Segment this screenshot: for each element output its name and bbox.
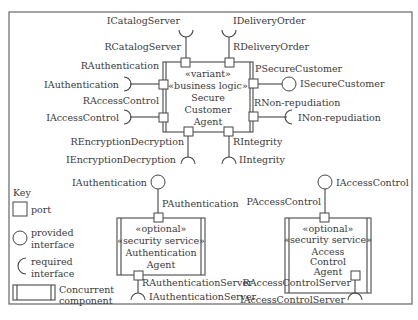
port-square-icon — [351, 271, 360, 280]
authentication-agent: «optional» «security service» Authentica… — [117, 218, 205, 275]
port-rnon-repudiation: INon-repudiation RNon-repudiation — [249, 97, 381, 124]
port-label: RCatalogServer — [104, 41, 181, 52]
required-interface-icon — [131, 293, 145, 300]
legend-label: Concurrent — [59, 284, 114, 295]
stereotype-variant: «variant» — [185, 68, 231, 79]
port-square-icon — [184, 127, 193, 136]
port-square-icon — [249, 79, 258, 88]
required-interface-icon — [181, 157, 195, 164]
legend-label: interface — [31, 268, 75, 279]
component-name-line: Agent — [313, 266, 343, 277]
port-label: REncryptionDecryption — [71, 136, 184, 147]
legend-provided-interface-icon — [13, 231, 27, 245]
legend-required-interface-icon — [18, 258, 26, 274]
legend-label: provided — [31, 227, 74, 238]
legend-label: component — [59, 295, 113, 306]
secure-customer-agent: «variant» «business logic» Secure Custom… — [163, 62, 253, 132]
interface-label: IDeliveryOrder — [233, 15, 306, 26]
legend-concurrent-component-icon — [13, 285, 55, 300]
port-rauthentication: IAuthentication RAuthentication — [44, 60, 168, 91]
interface-label: IAuthentication — [72, 177, 147, 188]
stereotype-optional: «optional» — [303, 223, 354, 234]
interface-label: ICatalogServer — [107, 15, 181, 26]
interface-label: IAccessControl — [336, 177, 409, 188]
port-label: RAuthentication — [81, 60, 159, 71]
port-psecurecustomer: ISecureCustomer PSecureCustomer — [249, 63, 385, 91]
component-name-line: Secure — [191, 92, 225, 103]
port-label: RNon-repudiation — [254, 97, 340, 108]
component-name-line: Authentication — [124, 247, 196, 258]
component-name-line: Agent — [193, 116, 223, 127]
legend-label: required — [31, 256, 73, 267]
required-interface-icon — [222, 157, 236, 164]
interface-label: IAuthentication — [44, 79, 119, 90]
port-label: PAccessControl — [246, 196, 321, 207]
provided-interface-icon — [282, 77, 296, 91]
legend-label: port — [31, 204, 51, 215]
interface-label: IAccessControl — [46, 112, 119, 123]
legend: Key port provided interface required int… — [13, 187, 114, 306]
port-raccesscontrol: IAccessControl RAccessControl — [46, 95, 168, 124]
legend-label: interface — [31, 239, 75, 250]
port-rdeliveryorder: IDeliveryOrder RDeliveryOrder — [222, 15, 309, 67]
port-square-icon — [225, 58, 234, 67]
port-rencryptiondecryption: REncryptionDecryption IEncryptionDecrypt… — [66, 127, 195, 165]
required-interface-icon — [222, 30, 236, 37]
port-square-icon — [181, 58, 190, 67]
component-name-line: Customer — [185, 104, 232, 115]
port-pauthentication: IAuthentication PAuthentication — [72, 175, 239, 222]
port-rintegrity: RIntegrity IIntegrity — [222, 127, 286, 165]
legend-port-square-icon — [13, 202, 27, 216]
component-name-line: Agent — [146, 259, 176, 270]
required-interface-icon — [124, 110, 131, 124]
port-label: RIntegrity — [233, 136, 283, 147]
interface-label: IEncryptionDecryption — [66, 154, 176, 165]
port-label: RAuthenticationServer — [142, 277, 253, 288]
stereotype-business-logic: «business logic» — [168, 80, 248, 91]
component-diagram: «variant» «business logic» Secure Custom… — [0, 0, 418, 320]
stereotype-optional: «optional» — [136, 223, 187, 234]
port-paccesscontrol: IAccessControl PAccessControl — [246, 175, 408, 222]
port-square-icon — [154, 213, 163, 222]
interface-label: IIntegrity — [239, 154, 286, 165]
provided-interface-icon — [151, 175, 165, 189]
port-square-icon — [159, 113, 168, 122]
port-square-icon — [320, 213, 329, 222]
port-label: PSecureCustomer — [255, 63, 343, 74]
legend-title: Key — [13, 187, 31, 198]
port-square-icon — [159, 80, 168, 89]
stereotype-security-service: «security service» — [284, 234, 372, 245]
port-label: RDeliveryOrder — [233, 41, 309, 52]
port-square-icon — [249, 112, 258, 121]
port-label: PAuthentication — [162, 198, 239, 209]
stereotype-security-service: «security service» — [117, 235, 205, 246]
interface-label: ISecureCustomer — [300, 78, 385, 89]
required-interface-icon — [348, 293, 362, 300]
required-interface-icon — [179, 30, 193, 37]
port-label: RAccessControlServer — [243, 277, 352, 288]
interface-label: IAccessControlServer — [240, 294, 346, 305]
provided-interface-icon — [318, 175, 332, 189]
interface-label: INon-repudiation — [298, 112, 381, 123]
port-label: RAccessControl — [83, 95, 159, 106]
required-interface-icon — [124, 77, 131, 91]
port-square-icon — [224, 127, 233, 136]
